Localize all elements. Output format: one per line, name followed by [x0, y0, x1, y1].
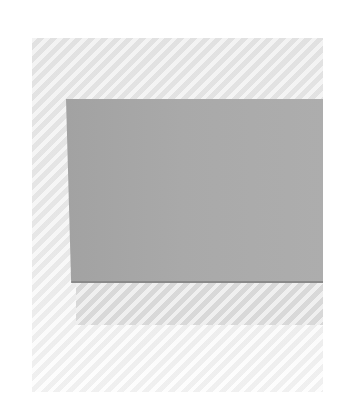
gray-card: [66, 99, 323, 283]
shadow-band: [76, 283, 323, 325]
